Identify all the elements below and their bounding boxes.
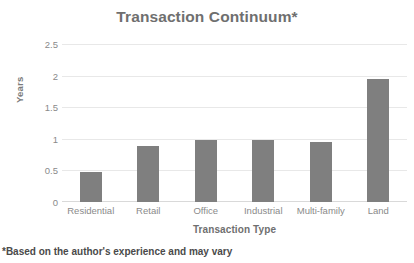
bar — [195, 140, 217, 202]
x-tick-label: Land — [350, 205, 408, 216]
y-tick-label: 1.5 — [24, 102, 58, 113]
x-tick-label: Multi-family — [292, 205, 350, 216]
chart-title: Transaction Continuum* — [0, 8, 414, 26]
bars-layer — [62, 44, 407, 202]
bar — [137, 146, 159, 202]
bar — [252, 140, 274, 202]
x-tick-label: Industrial — [235, 205, 293, 216]
bar — [310, 142, 332, 202]
x-tick-label: Retail — [120, 205, 178, 216]
chart-footnote: *Based on the author's experience and ma… — [2, 246, 232, 257]
x-tick-label: Residential — [62, 205, 120, 216]
bar-chart-figure: Transaction Continuum* Years 00.511.522.… — [0, 0, 414, 263]
bar — [367, 79, 389, 202]
x-tick-label: Office — [177, 205, 235, 216]
y-tick-label: 2 — [24, 70, 58, 81]
y-tick-label: 0.5 — [24, 165, 58, 176]
x-axis-tick-labels: ResidentialRetailOfficeIndustrialMulti-f… — [62, 205, 407, 219]
y-axis-tick-labels: 00.511.522.5 — [24, 44, 58, 202]
y-tick-label: 0 — [24, 197, 58, 208]
bar — [80, 172, 102, 202]
y-tick-label: 2.5 — [24, 39, 58, 50]
y-tick-label: 1 — [24, 133, 58, 144]
x-axis-title: Transaction Type — [62, 224, 407, 235]
